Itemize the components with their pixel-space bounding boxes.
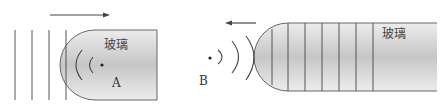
- glass-label-right: 玻璃: [382, 27, 406, 41]
- glass-rod-diagram: A 玻璃 B 玻璃: [0, 0, 447, 104]
- arrow-left-icon: [225, 21, 256, 26]
- right-figure: B 玻璃: [199, 21, 437, 92]
- arrow-right-icon: [50, 13, 110, 18]
- glass-label-left: 玻璃: [104, 38, 128, 52]
- focal-point-a: [100, 63, 103, 66]
- point-label-b: B: [199, 74, 208, 88]
- point-label-a: A: [111, 76, 121, 90]
- left-figure: A 玻璃: [15, 13, 157, 101]
- focal-point-b: [208, 56, 211, 59]
- plane-wavefronts-left: [15, 30, 66, 100]
- diverging-arcs-right: [218, 36, 254, 80]
- glass-rod-right: [254, 23, 437, 91]
